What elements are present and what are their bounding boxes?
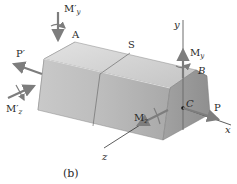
prismatic-member <box>38 42 210 140</box>
force-p-prime-arrow <box>14 64 42 74</box>
label-m-z-prime: M′z <box>6 104 22 117</box>
label-c: C <box>186 99 194 109</box>
figure-caption: (b) <box>63 169 79 179</box>
label-b: B <box>198 66 205 76</box>
label-x-axis: x <box>225 125 231 135</box>
label-s: S <box>128 40 135 50</box>
label-y-axis: y <box>174 20 180 30</box>
moment-mz-prime-icon <box>8 85 34 100</box>
label-a: A <box>72 30 79 40</box>
label-p: P <box>214 103 221 113</box>
label-m-y: My <box>190 48 204 61</box>
label-m-z: Mz <box>134 113 148 126</box>
moment-my-prime-icon <box>51 12 65 40</box>
label-z-axis: z <box>102 152 107 162</box>
label-p-prime: P′ <box>16 49 25 59</box>
beam-diagram <box>0 0 237 184</box>
label-m-y-prime: M′y <box>64 4 80 17</box>
